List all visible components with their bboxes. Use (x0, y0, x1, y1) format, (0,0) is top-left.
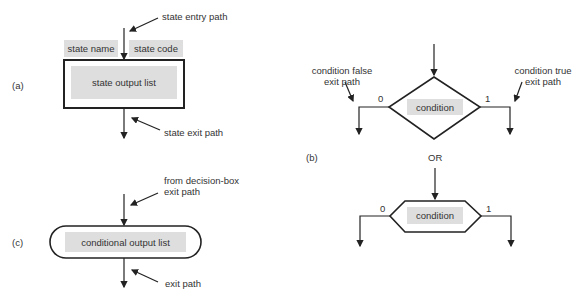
entry-pointer (130, 18, 158, 31)
cond-entry-annotation: from decision-box exit path (164, 175, 239, 197)
false-annotation-line1: condition false (292, 65, 392, 76)
hex-false-exit-arrow (360, 216, 390, 246)
part-b-label: (b) (306, 152, 318, 163)
cond-exit-pointer (132, 270, 158, 282)
cond-entry-annotation-line2: exit path (164, 186, 239, 197)
hexagon-condition-text: condition (407, 207, 463, 224)
false-exit-arrow (359, 107, 389, 134)
cond-entry-annotation-line1: from decision-box (164, 175, 239, 186)
cond-exit-annotation: exit path (165, 278, 201, 289)
true-value: 1 (485, 93, 490, 104)
false-annotation-line2: exit path (292, 76, 392, 87)
conditional-output-list: conditional output list (65, 232, 186, 252)
true-annotation: condition true exit path (505, 65, 581, 87)
true-annotation-line1: condition true (505, 65, 581, 76)
state-code-field: state code (129, 40, 183, 57)
state-name-field: state name (64, 40, 118, 57)
hex-true-exit-arrow (481, 216, 511, 246)
false-value: 0 (378, 93, 383, 104)
exit-pointer (132, 118, 160, 130)
part-c-label: (c) (12, 237, 23, 248)
hex-false-value: 0 (380, 203, 385, 214)
or-label: OR (428, 152, 442, 163)
state-output-list: state output list (71, 66, 177, 99)
state-exit-annotation: state exit path (164, 127, 223, 138)
cond-entry-pointer (131, 193, 158, 205)
hex-true-value: 1 (486, 203, 491, 214)
true-exit-arrow (480, 107, 510, 134)
false-annotation: condition false exit path (292, 65, 392, 87)
part-a-label: (a) (12, 80, 24, 91)
state-entry-annotation: state entry path (162, 11, 227, 22)
diamond-condition-text: condition (407, 99, 463, 115)
true-annotation-line2: exit path (505, 76, 581, 87)
